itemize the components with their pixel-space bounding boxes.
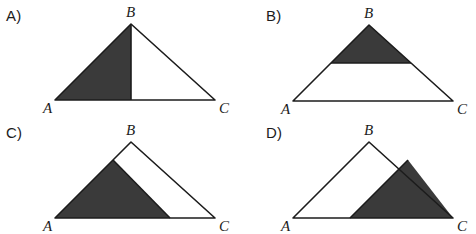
shaded-region-b: [331, 25, 411, 63]
shaded-region-c: [55, 160, 170, 218]
panel-option-d[interactable]: D) A B C: [238, 117, 476, 234]
vertex-label-a-A: A: [42, 100, 53, 116]
panel-d-diagram: A B C: [238, 117, 476, 234]
panel-option-c[interactable]: C) A B C: [0, 117, 238, 234]
vertex-label-a-C: C: [219, 100, 230, 116]
panel-b-diagram: A B C: [238, 0, 476, 117]
vertex-label-c-C: C: [219, 218, 230, 234]
vertex-label-b-C: C: [457, 101, 468, 117]
vertex-label-d-C: C: [457, 218, 468, 234]
vertex-label-b-A: A: [280, 101, 291, 117]
panel-c-diagram: A B C: [0, 117, 238, 234]
panel-option-a[interactable]: A) A B C: [0, 0, 238, 117]
vertex-label-a-B: B: [126, 4, 135, 20]
shaded-region-d: [350, 160, 453, 218]
vertex-label-d-A: A: [280, 218, 291, 234]
panel-option-b[interactable]: B) A B C: [238, 0, 476, 117]
vertex-label-c-B: B: [126, 122, 135, 138]
panel-a-diagram: A B C: [0, 0, 238, 117]
vertex-label-d-B: B: [364, 122, 373, 138]
multiple-choice-triangle-figure: A) A B C B) A B C C): [0, 0, 476, 234]
vertex-label-c-A: A: [42, 218, 53, 234]
vertex-label-b-B: B: [364, 5, 373, 21]
